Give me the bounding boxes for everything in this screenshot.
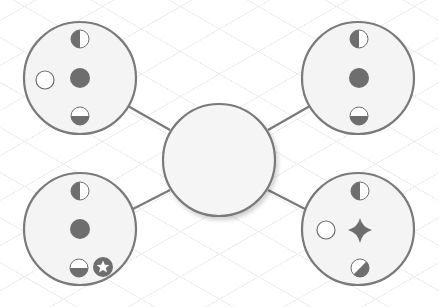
hub-spoke-diagram: [0, 0, 439, 307]
node-bottom-right[interactable]: [302, 173, 414, 285]
diagonal-half-filled-circle-icon: [351, 259, 369, 277]
empty-circle-icon: [317, 221, 335, 239]
node-bottom-left[interactable]: [24, 173, 136, 285]
center-node[interactable]: [163, 104, 275, 216]
bottom-half-filled-circle-icon: [71, 107, 89, 125]
bottom-half-filled-circle-icon: [70, 259, 88, 277]
filled-circle-icon: [70, 68, 90, 88]
node-top-right[interactable]: [302, 22, 414, 134]
empty-circle-icon: [36, 71, 54, 89]
filled-circle-icon: [70, 219, 90, 239]
star-badge-icon: [93, 257, 113, 277]
half-left-filled-circle-icon: [350, 30, 368, 48]
connector-bottom-left: [131, 190, 170, 210]
node-top-left[interactable]: [24, 22, 136, 134]
connector-top-left: [128, 106, 170, 130]
filled-circle-icon: [349, 68, 369, 88]
half-left-filled-circle-icon: [351, 182, 369, 200]
half-left-filled-circle-icon: [71, 30, 89, 48]
connector-bottom-right: [268, 190, 307, 210]
half-left-filled-circle-icon: [71, 182, 89, 200]
bottom-half-filled-circle-icon: [350, 107, 368, 125]
connector-top-right: [268, 106, 310, 130]
